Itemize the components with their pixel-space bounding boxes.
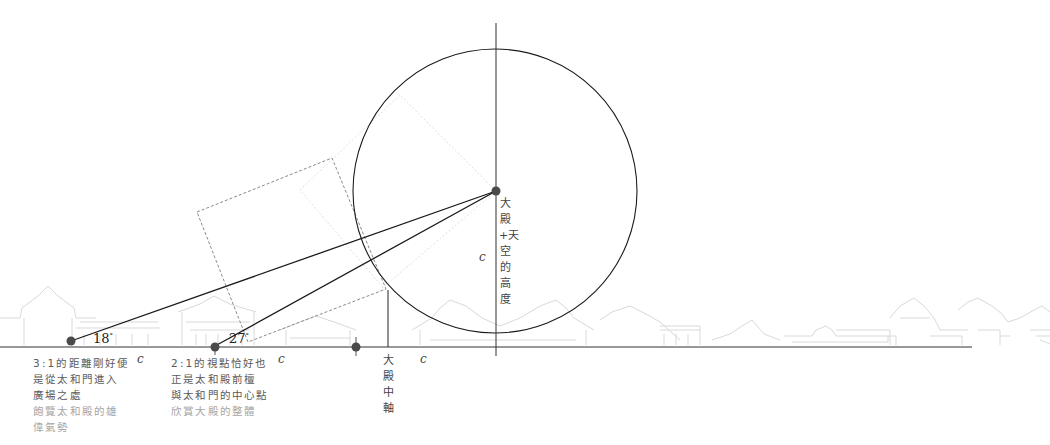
- viewpoint-dot-1-1: [352, 343, 361, 352]
- note-line: 2:1的視點恰好也: [171, 355, 269, 371]
- c-label-segment-2: c: [278, 352, 285, 366]
- note-line: 偉氣勢: [33, 419, 130, 435]
- degree-symbol: °: [246, 332, 250, 340]
- note-line: 飽覽太和殿的雄: [33, 403, 130, 419]
- angle-value: 27: [229, 331, 246, 346]
- faint-construction-square: [300, 95, 496, 290]
- note-3-1-viewpoint: 3:1的距離剛好便 是從太和門進入 廣場之處 飽覽太和殿的雄 偉氣勢: [33, 355, 130, 435]
- height-label: 大殿+天空的高度: [499, 196, 511, 308]
- note-line: 正是太和殿前檀: [171, 371, 269, 387]
- angle-value: 18: [93, 331, 110, 346]
- hall-axis-label: 大殿中軸: [382, 353, 394, 417]
- degree-symbol: °: [110, 332, 114, 340]
- note-line: 與太和門的中心點: [171, 387, 269, 403]
- angle-label-18: 18°: [93, 331, 113, 346]
- angle-label-27: 27°: [229, 331, 249, 346]
- note-line: 廣場之處: [33, 387, 130, 403]
- c-label-segment-1: c: [137, 352, 144, 366]
- c-label-segment-3: c: [420, 352, 427, 366]
- viewpoint-dot-3-1: [67, 337, 76, 346]
- c-label-radius: c: [479, 250, 486, 264]
- note-line: 是從太和門進入: [33, 371, 130, 387]
- note-line: 欣賞大殿的整體: [171, 403, 269, 419]
- viewpoint-dot-2-1: [211, 343, 220, 352]
- geometry-diagram: [0, 0, 1050, 445]
- dashed-square: [197, 158, 386, 342]
- note-line: 3:1的距離剛好便: [33, 355, 130, 371]
- circle-center-dot: [492, 187, 501, 196]
- note-2-1-viewpoint: 2:1的視點恰好也 正是太和殿前檀 與太和門的中心點 欣賞大殿的整體: [171, 355, 269, 419]
- building-silhouettes: [0, 286, 1050, 345]
